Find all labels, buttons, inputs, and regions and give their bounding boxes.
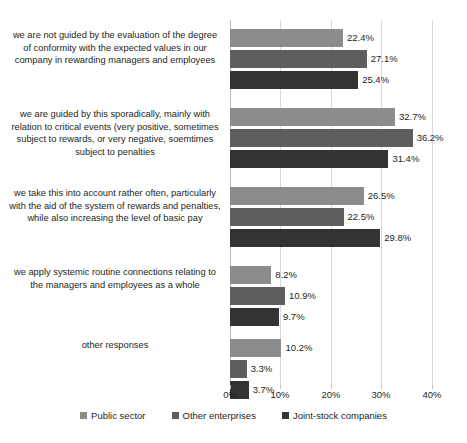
legend-item-2[interactable]: Joint-stock companies	[282, 410, 387, 421]
category-label-3: we apply systemic routine connections re…	[8, 266, 222, 291]
bar-row: 29.8%	[230, 229, 411, 247]
legend-label: Other enterprises	[183, 410, 256, 421]
bar-row: 26.5%	[230, 187, 395, 205]
bar	[230, 150, 388, 168]
bar-group: 8.2%10.9%9.7%	[230, 266, 455, 326]
bar-row: 3.3%	[230, 360, 272, 378]
xtick-label-30: 30%	[361, 389, 401, 400]
bar-row: 36.2%	[230, 129, 444, 147]
category-label-2: we take this into account rather often, …	[8, 187, 222, 225]
legend-label: Public sector	[91, 410, 145, 421]
category-label-1: we are guided by this sporadically, main…	[8, 108, 222, 158]
bar-value-label: 31.4%	[392, 150, 419, 168]
legend-swatch-icon	[282, 412, 289, 419]
bar-group: 32.7%36.2%31.4%	[230, 108, 455, 168]
bar-row: 22.5%	[230, 208, 374, 226]
bar	[230, 208, 344, 226]
bar	[230, 29, 343, 47]
category-label-0: we are not guided by the evaluation of t…	[8, 29, 222, 67]
bar-row: 9.7%	[230, 308, 305, 326]
bar-value-label: 32.7%	[399, 108, 426, 126]
legend-swatch-icon	[172, 412, 179, 419]
bar-value-label: 36.2%	[417, 129, 444, 147]
bar-value-label: 9.7%	[283, 308, 305, 326]
bar-value-label: 25.4%	[362, 71, 389, 89]
bar-row: 31.4%	[230, 150, 419, 168]
bar	[230, 266, 271, 284]
bar	[230, 71, 358, 89]
bar-value-label: 26.5%	[368, 187, 395, 205]
plot-area: 22.4%27.1%25.4%32.7%36.2%31.4%26.5%22.5%…	[230, 20, 455, 385]
bar	[230, 339, 281, 357]
bar	[230, 50, 367, 68]
xtick-label-10: 10%	[260, 389, 300, 400]
bar-row: 32.7%	[230, 108, 426, 126]
legend-item-0[interactable]: Public sector	[80, 410, 145, 421]
bar	[230, 187, 364, 205]
bar-row: 25.4%	[230, 71, 389, 89]
xtick-label-0: 0%	[210, 389, 250, 400]
bar-value-label: 29.8%	[384, 229, 411, 247]
bar-group: 22.4%27.1%25.4%	[230, 29, 455, 89]
legend-item-1[interactable]: Other enterprises	[172, 410, 256, 421]
bar-chart: we are not guided by the evaluation of t…	[0, 0, 467, 443]
bar	[230, 308, 279, 326]
bar	[230, 129, 413, 147]
bar-group: 26.5%22.5%29.8%	[230, 187, 455, 247]
bar-value-label: 22.4%	[347, 29, 374, 47]
chart-legend: Public sectorOther enterprisesJoint-stoc…	[0, 410, 467, 421]
xtick-label-40: 40%	[412, 389, 452, 400]
bar-row: 10.9%	[230, 287, 316, 305]
bar-value-label: 10.2%	[285, 339, 312, 357]
bar	[230, 108, 395, 126]
xtick-label-20: 20%	[311, 389, 351, 400]
legend-label: Joint-stock companies	[293, 410, 387, 421]
bar-value-label: 10.9%	[289, 287, 316, 305]
bar-row: 10.2%	[230, 339, 312, 357]
bar-row: 22.4%	[230, 29, 374, 47]
bar	[230, 229, 380, 247]
bar-value-label: 8.2%	[275, 266, 297, 284]
legend-swatch-icon	[80, 412, 87, 419]
bar-value-label: 22.5%	[348, 208, 375, 226]
bar	[230, 287, 285, 305]
bar-row: 8.2%	[230, 266, 297, 284]
bar-row: 27.1%	[230, 50, 398, 68]
category-label-4: other responses	[8, 339, 222, 352]
bar-value-label: 3.3%	[251, 360, 273, 378]
bar-value-label: 27.1%	[371, 50, 398, 68]
bar	[230, 360, 247, 378]
